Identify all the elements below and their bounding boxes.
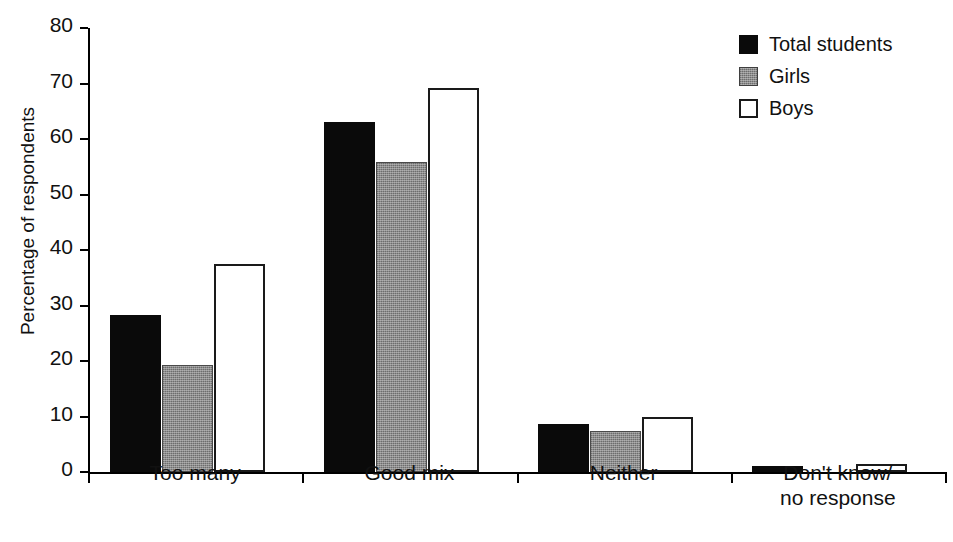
y-axis-line	[88, 28, 90, 472]
legend-label-total-students: Total students	[769, 33, 892, 55]
bar-total-1	[324, 122, 375, 472]
x-axis-label-0: Too many	[88, 460, 302, 485]
x-tick-4	[945, 472, 947, 483]
y-tick-label-30: 30	[50, 292, 73, 314]
y-tick-label-20: 20	[50, 347, 73, 369]
bar-girls-1	[376, 162, 427, 472]
bar-chart: Percentage of respondents 01020304050607…	[0, 0, 953, 542]
legend-label-boys: Boys	[769, 97, 813, 119]
legend-swatch-total-students-icon	[739, 35, 758, 54]
y-tick-20: 20	[80, 360, 88, 362]
bar-boys-1	[428, 88, 479, 472]
legend-label-girls: Girls	[769, 65, 810, 87]
y-tick-label-50: 50	[50, 181, 73, 203]
y-axis-title: Percentage of respondents	[17, 1, 39, 441]
legend-item-total-students: Total students	[739, 30, 949, 58]
chart-legend: Total students Girls Boys	[739, 30, 949, 126]
y-tick-0: 0	[80, 471, 88, 473]
legend-item-boys: Boys	[739, 94, 949, 122]
y-tick-40: 40	[80, 249, 88, 251]
x-axis-label-1: Good mix	[302, 460, 516, 485]
legend-swatch-boys-icon	[739, 99, 758, 118]
y-tick-label-0: 0	[61, 458, 73, 480]
bar-total-0	[110, 315, 161, 472]
bar-girls-0	[162, 365, 213, 472]
y-tick-30: 30	[80, 305, 88, 307]
x-axis-label-3: Don't know/ no response	[731, 460, 945, 510]
y-tick-50: 50	[80, 194, 88, 196]
y-tick-label-40: 40	[50, 236, 73, 258]
y-tick-70: 70	[80, 83, 88, 85]
legend-swatch-girls-icon	[739, 67, 758, 86]
x-axis-label-2: Neither	[517, 460, 731, 485]
y-tick-60: 60	[80, 138, 88, 140]
y-tick-label-80: 80	[50, 14, 73, 36]
legend-item-girls: Girls	[739, 62, 949, 90]
y-tick-80: 80	[80, 27, 88, 29]
y-tick-label-70: 70	[50, 70, 73, 92]
bar-boys-0	[214, 264, 265, 472]
y-tick-label-60: 60	[50, 125, 73, 147]
clipped-title-remnant	[0, 0, 953, 4]
y-tick-10: 10	[80, 416, 88, 418]
y-tick-label-10: 10	[50, 403, 73, 425]
